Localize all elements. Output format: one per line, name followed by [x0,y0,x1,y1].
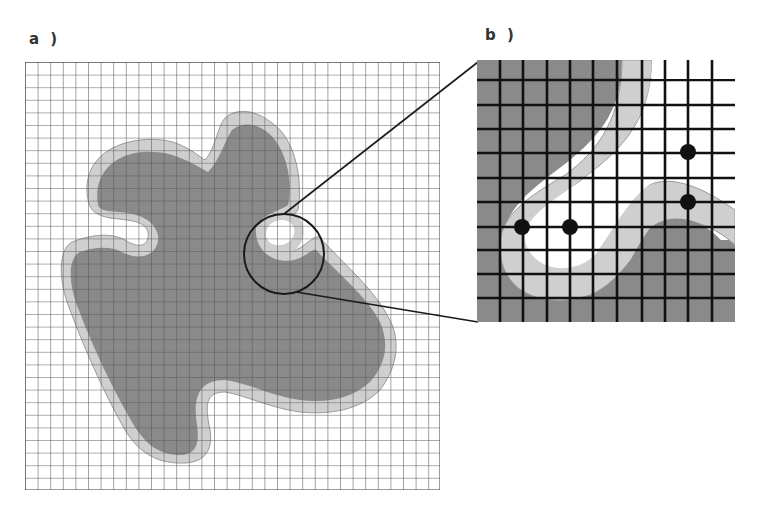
panel-a [25,62,440,490]
sample-point [680,194,696,210]
sample-point [514,219,530,235]
figure-canvas [0,0,760,519]
sample-point [562,219,578,235]
panel-b [477,58,737,322]
sample-point [680,144,696,160]
